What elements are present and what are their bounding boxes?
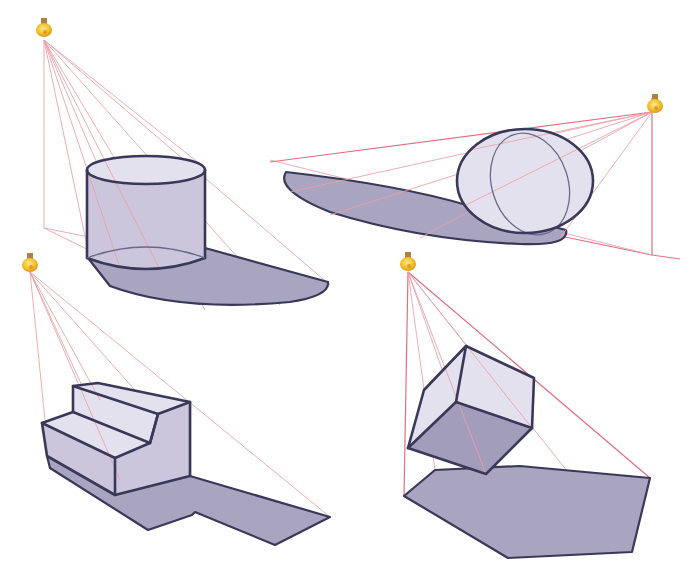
cube-shadow xyxy=(404,466,650,558)
panel-cube xyxy=(400,252,650,558)
light-bulb-icon xyxy=(22,253,38,272)
light-bulb-icon xyxy=(400,252,416,271)
shadow-diagram xyxy=(0,0,690,572)
panel-sphere xyxy=(270,94,680,259)
light-bulb-icon xyxy=(36,18,52,37)
light-bulb-icon xyxy=(647,94,663,113)
